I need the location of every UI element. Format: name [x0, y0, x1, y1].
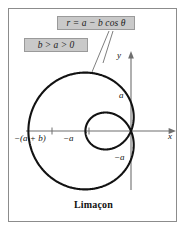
equation-leader-line-2: [103, 31, 113, 63]
equation-callout: r = a − b cos θ: [57, 16, 135, 30]
y-axis-label: y: [117, 50, 121, 60]
condition-callout: b > a > 0: [24, 38, 88, 52]
x-axis-label: x: [168, 131, 172, 141]
y-tick-label-neg-a: −a: [114, 152, 125, 162]
callout-leader-group: [92, 31, 113, 72]
limacon-figure: r = a − b cos θ b > a > 0 y x a −a −a −(…: [0, 0, 187, 232]
y-axis-arrow-icon: [128, 51, 134, 58]
x-tick-label-neg-a: −a: [63, 133, 74, 143]
y-tick-label-a: a: [119, 90, 124, 100]
figure-caption: Limaçon: [0, 199, 187, 210]
x-tick-label-neg-a-plus-b: −(a + b): [14, 133, 46, 143]
limacon-plot: [0, 0, 187, 232]
axes-group: [26, 51, 176, 190]
